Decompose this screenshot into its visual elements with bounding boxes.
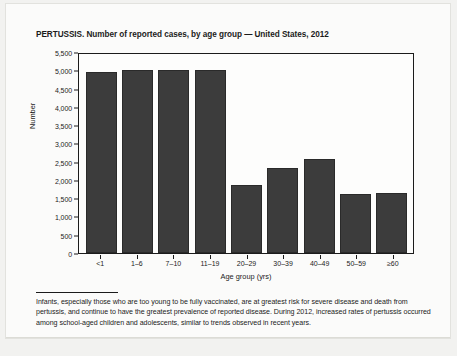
y-axis-label: Number xyxy=(28,103,37,129)
x-tick-label: 20–29 xyxy=(228,255,265,271)
scanned-page: PERTUSSIS. Number of reported cases, by … xyxy=(0,0,457,356)
x-tick-label: 1–6 xyxy=(119,255,156,271)
bar-slot xyxy=(119,54,155,253)
x-axis-label: Age group (yrs) xyxy=(78,272,414,281)
bar-50–59 xyxy=(340,194,371,253)
plot-area xyxy=(78,53,414,254)
footnote-rule xyxy=(36,292,118,293)
x-tick-label: 50–59 xyxy=(338,255,375,271)
y-axis-ticks: 5,5005,0004,5004,0003,5003,0002,5002,000… xyxy=(42,53,78,254)
bar-slot xyxy=(337,54,373,253)
y-tick-label: 5,000 xyxy=(55,68,72,75)
bar-slot xyxy=(301,54,337,253)
y-tick-label: 4,500 xyxy=(55,86,72,93)
y-tick-label: 4,000 xyxy=(55,104,72,111)
bar-40–49 xyxy=(304,159,335,253)
x-tick-mark xyxy=(393,255,394,259)
x-axis-ticks: <11–67–1011–1920–2930–3940–4950–59≥60 xyxy=(78,255,414,271)
bar-20–29 xyxy=(231,185,262,253)
y-tick-label: 1,500 xyxy=(55,196,72,203)
bar-≥60 xyxy=(376,193,407,253)
bar-slot xyxy=(156,54,192,253)
bar-7–10 xyxy=(158,70,189,253)
x-tick-mark xyxy=(210,255,211,259)
footnote-text: Infants, especially those who are too yo… xyxy=(36,297,431,328)
x-tick-mark xyxy=(173,255,174,259)
x-tick-label: <1 xyxy=(82,255,119,271)
bar-30–39 xyxy=(267,168,298,253)
y-tick-label: 1,000 xyxy=(55,214,72,221)
page-sheet: PERTUSSIS. Number of reported cases, by … xyxy=(6,4,450,338)
x-tick-label: 7–10 xyxy=(155,255,192,271)
bar-slot xyxy=(83,54,119,253)
chart-title: PERTUSSIS. Number of reported cases, by … xyxy=(36,30,436,40)
bar-<1 xyxy=(86,72,117,253)
x-tick-mark xyxy=(137,255,138,259)
x-tick-label: 40–49 xyxy=(301,255,338,271)
y-tick-label: 2,000 xyxy=(55,177,72,184)
x-tick-label: 11–19 xyxy=(192,255,229,271)
bar-1–6 xyxy=(122,70,153,253)
bar-slot xyxy=(265,54,301,253)
bar-slot xyxy=(192,54,228,253)
bar-series xyxy=(79,54,413,253)
y-tick-label: 3,500 xyxy=(55,123,72,130)
x-tick-mark xyxy=(356,255,357,259)
bar-slot xyxy=(228,54,264,253)
x-tick-mark xyxy=(283,255,284,259)
y-tick-label: 5,500 xyxy=(55,50,72,57)
x-tick-mark xyxy=(320,255,321,259)
x-tick-label: ≥60 xyxy=(375,255,412,271)
y-tick-label: 2,500 xyxy=(55,159,72,166)
x-tick-label: 30–39 xyxy=(265,255,302,271)
y-tick-label: 0 xyxy=(68,251,72,258)
bar-slot xyxy=(374,54,410,253)
x-tick-mark xyxy=(247,255,248,259)
x-tick-mark xyxy=(100,255,101,259)
y-tick-label: 500 xyxy=(61,232,72,239)
y-tick-label: 3,000 xyxy=(55,141,72,148)
bar-11–19 xyxy=(195,70,226,253)
